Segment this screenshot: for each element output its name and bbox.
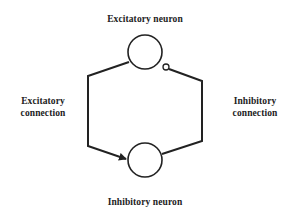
inhibitory-connection-label: Inhibitory connection bbox=[220, 95, 290, 119]
inhibitory-connection-label-line1: Inhibitory bbox=[220, 95, 290, 107]
inhibitory-neuron bbox=[128, 143, 162, 177]
inhibitory-terminal-icon bbox=[163, 64, 169, 70]
excitatory-connection-label-line1: Excitatory bbox=[8, 95, 78, 107]
inhibitory-neuron-label: Inhibitory neuron bbox=[95, 196, 195, 208]
inhibitory-connection-label-line2: connection bbox=[220, 107, 290, 119]
excitatory-connection-label: Excitatory connection bbox=[8, 95, 78, 119]
inhibitory-connection-line bbox=[162, 69, 202, 154]
excitatory-neuron-label: Excitatory neuron bbox=[95, 13, 195, 25]
excitatory-neuron bbox=[128, 35, 162, 69]
excitatory-connection-label-line2: connection bbox=[8, 107, 78, 119]
excitatory-connection-line bbox=[88, 62, 129, 159]
